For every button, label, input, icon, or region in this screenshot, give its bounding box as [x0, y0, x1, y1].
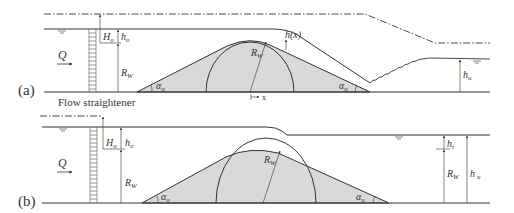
water-level-symbol-a-left	[58, 31, 66, 33]
flow-straightener-b	[90, 127, 97, 203]
svg-text:ho: ho	[125, 137, 134, 150]
panel-label-a: (a)	[18, 82, 35, 99]
R-w-crest-label-b: R	[263, 154, 270, 165]
R-w-left-label-b: R	[124, 177, 131, 188]
hydraulic-jump-a	[370, 58, 490, 83]
svg-text:Ho: Ho	[105, 137, 117, 150]
water-level-symbol-b-right	[395, 137, 403, 139]
panel-label-b: (b)	[18, 193, 36, 210]
R-w-crest-label-a: R	[250, 47, 257, 58]
weir-flow-diagram: (a) Q Ho ho RW RW h(x) αo αu x hu Flow s…	[0, 0, 514, 213]
water-level-symbol-b-left	[59, 129, 67, 131]
svg-text:RW: RW	[120, 67, 134, 80]
water-surface-b	[42, 127, 490, 135]
panel-a: (a) Q Ho ho RW RW h(x) αo αu x hu	[18, 14, 490, 102]
svg-text:hu: hu	[470, 168, 481, 181]
R-w-left-label-a: R	[120, 67, 127, 78]
flow-straightener-caption: Flow straightener	[58, 96, 136, 108]
svg-text:RW: RW	[124, 177, 138, 190]
h-x-label-a: h(x)	[285, 29, 302, 41]
svg-text:Ho: Ho	[102, 31, 114, 44]
Q-label-b: Q	[58, 156, 67, 170]
panel-b: (b) Q Ho ho RW RW αo αu ht RW hu	[18, 116, 490, 210]
x-axis-label-a: x	[262, 93, 266, 102]
h-u-label-b: h	[470, 168, 475, 179]
flow-straightener-a	[89, 29, 96, 92]
water-level-symbol-a-right	[473, 61, 481, 63]
R-w-right-label-b: R	[446, 168, 453, 179]
svg-text:RW: RW	[446, 168, 460, 181]
Q-label-a: Q	[58, 48, 67, 62]
svg-text:hu: hu	[463, 69, 472, 82]
svg-text:ho: ho	[121, 31, 130, 44]
